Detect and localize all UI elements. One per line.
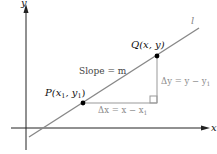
point-q-label: Q(x, y) [131,39,165,50]
x-axis-label: x [211,122,217,133]
line-l-label: l [191,15,194,26]
x-axis-arrow-icon [201,126,210,131]
point-p-label: P(x1, y1) [44,87,86,100]
delta-y-label: Δy = y − y1 [161,76,210,87]
point-p [81,101,86,106]
right-angle-marker [150,96,157,103]
y-axis-label: y [20,0,27,8]
delta-x-label: Δx = x − x1 [98,105,147,116]
slope-label: Slope = m [79,66,127,76]
slope-diagram: y x l Q(x, y) P(x1, y1) Slope = m Δy = y… [0,0,217,154]
point-q [155,54,160,59]
